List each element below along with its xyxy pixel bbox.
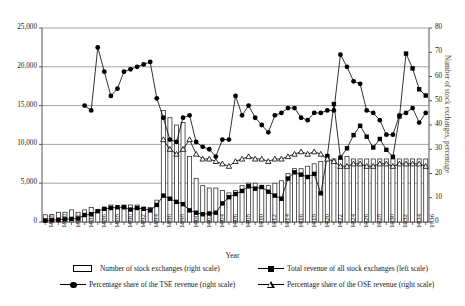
x-axis-tick-label: 1884 [88, 214, 95, 228]
x-axis-tick-label: 1934 [416, 214, 423, 228]
chart-marker [161, 193, 165, 197]
chart-marker [128, 67, 133, 72]
chart-marker [194, 140, 199, 145]
chart-marker [187, 208, 191, 212]
chart-marker [240, 113, 245, 118]
x-axis-tick-label: 1922 [337, 214, 344, 228]
chart-marker [266, 130, 271, 135]
chart-marker [253, 186, 257, 190]
chart-marker [168, 137, 173, 142]
chart-bar [325, 159, 329, 222]
chart-marker [174, 140, 179, 145]
chart-marker [331, 108, 336, 113]
x-axis-tick-label: 1908 [245, 214, 252, 228]
x-axis-tick-label: 1906 [232, 214, 239, 228]
chart-marker [200, 144, 205, 149]
chart-marker [135, 64, 140, 69]
x-axis-title: Year [0, 251, 465, 260]
x-axis-tick-label: 1916 [298, 214, 305, 228]
y-axis-left-tick-label: 20,000 [17, 63, 37, 70]
chart-bar [174, 125, 178, 222]
x-axis-tick-label: 1932 [402, 214, 409, 228]
chart-marker [95, 45, 100, 50]
chart-marker [148, 208, 152, 212]
y-axis-right-tick-label: 50 [435, 97, 442, 104]
legend-label-bars: Number of stock exchanges (right scale) [100, 264, 220, 273]
legend-row-2: Percentage share of the TSE revenue (rig… [0, 280, 465, 296]
y-axis-left-tick-label: 25,000 [17, 24, 37, 31]
chart-marker [240, 189, 244, 193]
chart-marker [351, 133, 355, 137]
chart-marker [292, 170, 296, 174]
x-axis-tick-label: 1888 [114, 214, 121, 228]
chart-marker [391, 155, 395, 159]
chart-marker [181, 202, 185, 206]
chart-marker [260, 185, 264, 189]
x-axis-tick-label: 1904 [219, 214, 226, 228]
legend-item-total-revenue: Total revenue of all stock exchanges (le… [258, 264, 428, 273]
chart-marker [154, 96, 159, 101]
chart-marker [273, 193, 277, 197]
chart-legend: Number of stock exchanges (right scale) … [0, 264, 465, 296]
legend-item-tse: Percentage share of the TSE revenue (rig… [60, 280, 235, 289]
chart-marker [246, 184, 250, 188]
chart-marker [410, 106, 415, 111]
chart-marker [351, 79, 356, 84]
x-axis-tick-label: 1918 [311, 214, 318, 228]
chart-marker [272, 113, 277, 118]
chart-marker [358, 124, 362, 128]
x-axis-tick-label: 1930 [389, 214, 396, 228]
x-axis-tick-label: 1878 [48, 214, 55, 228]
x-axis-tick-label: 1928 [376, 214, 383, 228]
chart-marker [187, 113, 192, 118]
chart-marker [338, 155, 342, 159]
chart-bar [181, 123, 185, 222]
chart-marker [410, 66, 414, 70]
chart-bar [358, 159, 362, 222]
y-axis-right-title: Number of stock exchanges, percentage [443, 55, 452, 173]
chart-marker [404, 110, 409, 115]
chart-marker [286, 176, 290, 180]
chart-marker [417, 120, 422, 125]
chart-figure: 05,00010,00015,00020,00025,0000102030405… [0, 0, 465, 306]
chart-marker [384, 148, 388, 152]
legend-label-tse: Percentage share of the TSE revenue (rig… [89, 280, 235, 289]
legend-row-1: Number of stock exchanges (right scale) … [0, 264, 465, 280]
chart-marker [220, 201, 224, 205]
chart-marker [89, 108, 94, 113]
chart-marker [279, 197, 283, 201]
chart-marker [115, 86, 120, 91]
x-axis-tick-label: 1900 [193, 214, 200, 228]
chart-bar [397, 159, 401, 222]
chart-marker [318, 110, 323, 115]
chart-marker [299, 172, 303, 176]
chart-marker [423, 110, 428, 115]
x-axis-tick-label: 1914 [284, 214, 291, 228]
chart-marker [102, 69, 107, 74]
chart-marker [371, 145, 375, 149]
chart-marker [305, 118, 310, 123]
chart-marker [115, 205, 119, 209]
y-axis-left-tick-label: 5,000 [21, 179, 37, 186]
chart-bar [378, 159, 382, 222]
chart-marker [345, 146, 349, 150]
chart-bar [161, 110, 165, 222]
chart-bar [404, 159, 408, 222]
chart-marker [155, 203, 159, 207]
legend-item-ose: Percentage share of the OSE revenue (rig… [258, 280, 434, 289]
y-axis-right-tick-label: 60 [435, 73, 442, 80]
chart-marker [292, 106, 297, 111]
chart-marker [312, 149, 317, 154]
chart-marker [207, 147, 212, 152]
y-axis-right-tick-label: 20 [435, 170, 442, 177]
chart-marker [286, 106, 291, 111]
chart-marker [128, 207, 132, 211]
x-axis-tick-label: 1894 [153, 214, 160, 228]
open-rect-icon [71, 264, 97, 273]
chart-marker [345, 64, 350, 69]
chart-bar [293, 169, 297, 222]
legend-label-total-revenue: Total revenue of all stock exchanges (le… [287, 264, 428, 273]
x-axis-tick-label: 1886 [101, 214, 108, 228]
x-axis-tick-label: 1882 [75, 214, 82, 228]
chart-marker [312, 110, 317, 115]
